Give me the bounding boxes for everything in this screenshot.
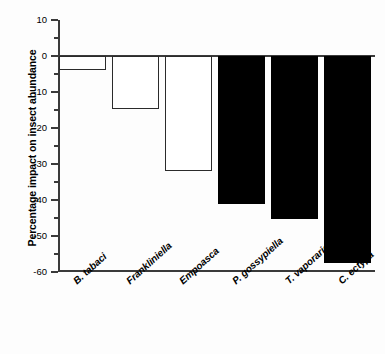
y-tick-major [51,271,58,273]
y-tick-label: 10 [7,15,47,25]
y-tick-minor [54,73,58,75]
y-tick-minor [54,217,58,219]
y-tick-major [51,163,58,165]
bar-4 [271,56,318,219]
y-tick-major [51,127,58,129]
y-tick-label: 0 [7,51,47,61]
y-tick-major [51,199,58,201]
bar-3 [218,56,265,204]
y-tick-minor [54,37,58,39]
y-tick-major [51,19,58,21]
y-tick-minor [54,181,58,183]
y-tick-major [51,55,58,57]
bar-2 [165,56,212,171]
y-tick-label: -60 [7,267,47,277]
y-tick-minor [54,253,58,255]
y-tick-label: -30 [7,159,47,169]
bar-0 [59,56,106,70]
y-tick-label: -40 [7,195,47,205]
y-tick-minor [54,145,58,147]
plot-area: 100-10-20-30-40-50-60 [58,20,375,272]
x-axis-line [58,270,375,272]
chart-figure: Percentage impact on insect abundance 10… [0,0,385,354]
y-tick-major [51,235,58,237]
y-tick-label: -10 [7,87,47,97]
y-tick-label: -20 [7,123,47,133]
y-tick-label: -50 [7,231,47,241]
bar-1 [112,56,159,109]
bar-5 [324,56,371,263]
y-tick-major [51,91,58,93]
y-tick-minor [54,109,58,111]
